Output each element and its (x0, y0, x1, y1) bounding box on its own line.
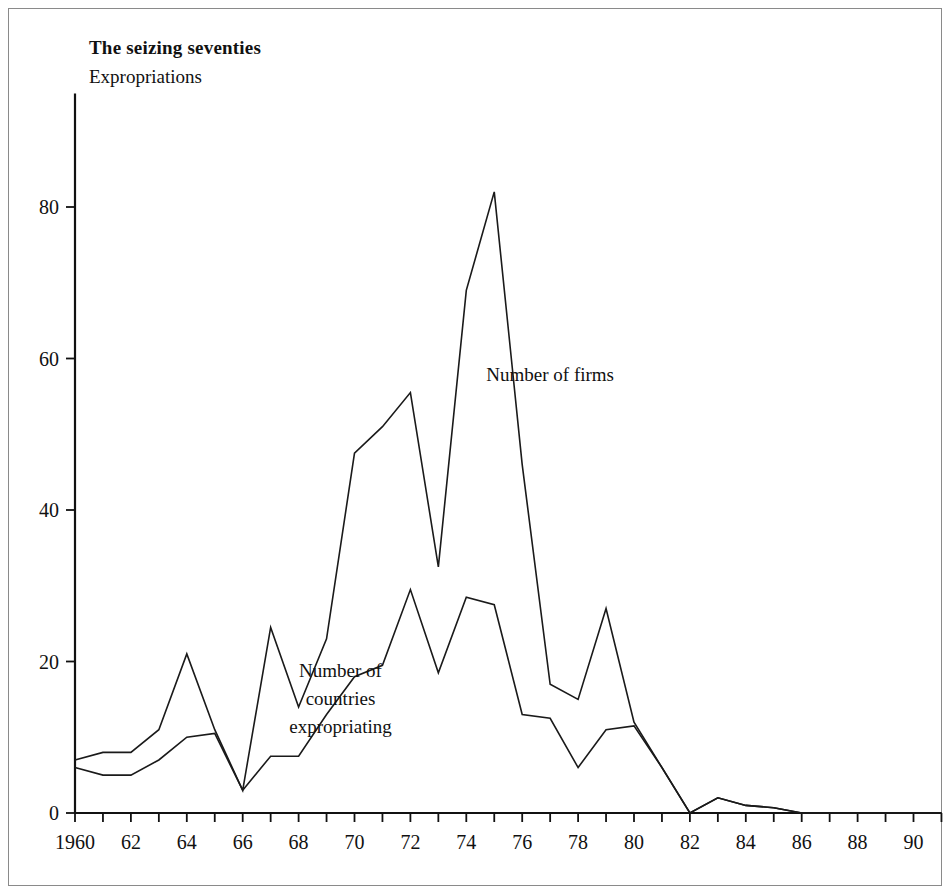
series-lines (75, 192, 941, 813)
x-axis-tick-label: 88 (848, 831, 868, 853)
annotation-number-of-countries-line-2: countries (306, 688, 376, 709)
x-axis-tick-label: 68 (289, 831, 309, 853)
series-annotations: Number of firmsNumber ofcountriesexpropr… (289, 364, 614, 736)
annotation-number-of-firms: Number of firms (486, 364, 614, 385)
x-axis: 1960626466687072747678808284868890 (55, 813, 941, 853)
x-axis-tick-label: 62 (121, 831, 141, 853)
annotation-number-of-countries-line-3: expropriating (289, 716, 392, 737)
y-axis: 020406080 (39, 93, 75, 824)
x-axis-tick-label: 64 (177, 831, 197, 853)
x-axis-tick-label: 76 (512, 831, 532, 853)
x-axis-tick-label: 72 (400, 831, 420, 853)
x-axis-tick-label: 1960 (55, 831, 95, 853)
x-axis-tick-label: 80 (624, 831, 644, 853)
series-line (75, 192, 941, 813)
y-axis-tick-label: 60 (39, 348, 59, 370)
x-axis-tick-label: 78 (568, 831, 588, 853)
expropriations-line-chart: 020406080 196062646668707274767880828486… (0, 0, 952, 896)
annotation-number-of-countries-line-1: Number of (299, 660, 383, 681)
x-axis-tick-label: 66 (233, 831, 253, 853)
x-axis-tick-label: 82 (680, 831, 700, 853)
y-axis-tick-label: 0 (49, 802, 59, 824)
x-axis-tick-label: 90 (904, 831, 924, 853)
x-axis-tick-label: 84 (736, 831, 756, 853)
y-axis-tick-label: 20 (39, 651, 59, 673)
x-axis-tick-label: 74 (456, 831, 476, 853)
x-axis-tick-label: 86 (792, 831, 812, 853)
x-axis-tick-label: 70 (345, 831, 365, 853)
y-axis-tick-label: 80 (39, 196, 59, 218)
y-axis-tick-label: 40 (39, 499, 59, 521)
